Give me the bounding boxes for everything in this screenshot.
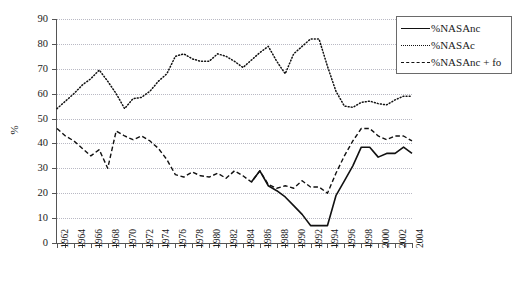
x-tick-label: 1976 (179, 229, 188, 248)
plot-area (57, 19, 412, 243)
y-tick (52, 193, 57, 194)
x-tick (395, 244, 396, 248)
chart-figure: 0102030405060708090 19621964196619681970… (0, 0, 517, 284)
y-tick (52, 218, 57, 219)
y-tick (52, 19, 57, 20)
x-tick-label: 1990 (298, 229, 307, 248)
x-tick (158, 244, 159, 248)
x-tick-label: 1998 (365, 229, 374, 248)
x-tick (243, 244, 244, 248)
y-axis-line (56, 19, 57, 244)
gridline (57, 218, 412, 219)
x-tick-label: 1996 (348, 229, 357, 248)
x-tick-label: 2004 (416, 229, 425, 248)
y-tick-label: 20 (8, 188, 48, 198)
x-tick (260, 244, 261, 248)
x-tick-label: 1978 (196, 229, 205, 248)
legend-swatch-solid-icon (401, 23, 430, 35)
x-tick (412, 244, 413, 248)
x-tick (209, 244, 210, 248)
x-tick (294, 244, 295, 248)
x-tick (175, 244, 176, 248)
x-tick-label: 1970 (129, 229, 138, 248)
y-tick (52, 143, 57, 144)
gridline (57, 119, 412, 120)
y-tick-label: 80 (8, 39, 48, 49)
y-axis-title: % (8, 110, 20, 150)
x-tick-label: 2000 (382, 229, 391, 248)
gridline (57, 44, 412, 45)
x-tick (74, 244, 75, 248)
gridline (57, 193, 412, 194)
y-tick-label: 60 (8, 89, 48, 99)
y-tick (52, 69, 57, 70)
gridline (57, 19, 412, 20)
legend-label: %NASAnc + fo (431, 57, 501, 68)
x-tick (361, 244, 362, 248)
y-tick-label: 70 (8, 64, 48, 74)
x-tick-label: 1968 (112, 229, 121, 248)
x-tick-label: 1980 (213, 229, 222, 248)
legend-item-nasanc-fo: %NASAnc + fo (401, 54, 507, 71)
x-tick (344, 244, 345, 248)
x-tick-label: 1994 (331, 229, 340, 248)
x-tick-label: 1984 (247, 229, 256, 248)
gridline (57, 69, 412, 70)
x-tick (327, 244, 328, 248)
x-tick-label: 1992 (315, 229, 324, 248)
y-tick-label: 90 (8, 14, 48, 24)
legend: %NASAnc %NASAc %NASAnc + fo (396, 16, 512, 74)
x-tick-label: 1962 (61, 229, 70, 248)
x-tick-label: 1974 (162, 229, 171, 248)
gridline (57, 143, 412, 144)
x-tick (192, 244, 193, 248)
x-tick (277, 244, 278, 248)
legend-swatch-dashed-icon (401, 57, 430, 69)
x-tick (57, 244, 58, 248)
x-tick (91, 244, 92, 248)
x-tick-label: 1964 (78, 229, 87, 248)
legend-item-nasac: %NASAc (401, 37, 507, 54)
legend-label: %NASAc (431, 40, 475, 51)
x-tick-label: 1982 (230, 229, 239, 248)
gridline (57, 168, 412, 169)
y-tick (52, 44, 57, 45)
legend-label: %NASAnc (431, 23, 481, 34)
legend-item-nasanc: %NASAnc (401, 20, 507, 37)
x-tick-label: 1972 (146, 229, 155, 248)
legend-swatch-dotted-icon (401, 40, 430, 52)
y-tick-label: 10 (8, 213, 48, 223)
x-tick (226, 244, 227, 248)
x-tick-label: 1986 (264, 229, 273, 248)
x-tick-label: 1988 (281, 229, 290, 248)
x-tick (108, 244, 109, 248)
x-tick (125, 244, 126, 248)
gridline (57, 94, 412, 95)
x-tick-label: 2002 (399, 229, 408, 248)
x-tick-label: 1966 (95, 229, 104, 248)
x-tick (311, 244, 312, 248)
x-tick (378, 244, 379, 248)
y-tick (52, 168, 57, 169)
y-tick (52, 119, 57, 120)
y-tick (52, 94, 57, 95)
y-tick-label: 0 (8, 238, 48, 248)
x-tick (142, 244, 143, 248)
y-tick-label: 30 (8, 163, 48, 173)
